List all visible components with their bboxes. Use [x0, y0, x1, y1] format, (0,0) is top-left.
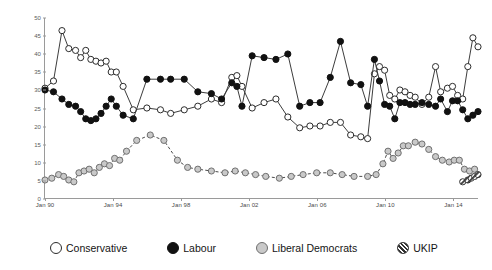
data-point	[103, 58, 109, 64]
data-point	[134, 137, 140, 143]
data-point	[144, 105, 150, 111]
data-point	[376, 78, 382, 84]
data-point	[412, 94, 418, 100]
data-point	[314, 170, 320, 176]
data-point	[456, 157, 462, 163]
x-axis-tick-label: Jan 02	[240, 202, 259, 208]
data-point	[208, 168, 214, 174]
series-line	[45, 41, 478, 120]
data-point	[161, 137, 167, 143]
data-point	[66, 46, 72, 52]
data-point	[373, 172, 379, 178]
data-point	[285, 51, 291, 57]
data-point	[358, 82, 364, 88]
data-point	[103, 103, 109, 109]
x-axis-tick-mark	[317, 198, 318, 201]
data-point	[327, 74, 333, 80]
series-canvas	[45, 18, 478, 198]
data-point	[120, 112, 126, 118]
data-point	[317, 123, 323, 129]
x-axis-tick-label: Jan 98	[172, 202, 191, 208]
data-point	[218, 96, 224, 102]
data-point	[432, 64, 438, 70]
data-point	[475, 172, 481, 178]
x-axis-tick-mark	[249, 198, 250, 201]
data-point	[371, 56, 377, 62]
data-point	[475, 44, 481, 50]
data-point	[263, 173, 269, 179]
x-axis-tick-label: Jan 90	[36, 202, 55, 208]
data-point	[419, 100, 425, 106]
legend-label: UKIP	[413, 243, 438, 254]
x-axis-tick-mark	[45, 198, 46, 201]
y-axis-tick-mark	[43, 180, 46, 181]
series-line	[45, 135, 475, 182]
y-axis-tick-mark	[43, 144, 46, 145]
y-axis-tick-mark	[43, 126, 46, 127]
data-point	[438, 89, 444, 95]
data-point	[261, 100, 267, 106]
data-point	[395, 150, 401, 156]
x-axis-tick-label: Jan 06	[308, 202, 327, 208]
data-point	[113, 103, 119, 109]
data-point	[59, 28, 65, 34]
data-point	[123, 148, 129, 154]
data-point	[419, 141, 425, 147]
open-circle-icon	[50, 242, 62, 254]
data-point	[232, 168, 238, 174]
series-labour	[42, 38, 481, 123]
data-point	[78, 55, 84, 61]
data-point	[365, 173, 371, 179]
y-axis-tick-mark	[43, 54, 46, 55]
data-point	[71, 179, 77, 185]
legend-item-liberal-democrats: Liberal Democrats	[256, 242, 357, 254]
y-axis-tick-mark	[43, 72, 46, 73]
data-point	[78, 109, 84, 115]
data-point	[358, 134, 364, 140]
legend-label: Liberal Democrats	[272, 243, 357, 254]
data-point	[249, 105, 255, 111]
data-point	[297, 103, 303, 109]
data-point	[412, 139, 418, 145]
series-line	[45, 31, 478, 139]
legend-item-labour: Labour	[167, 242, 216, 254]
data-point	[470, 35, 476, 41]
x-axis-tick-mark	[113, 198, 114, 201]
data-point	[234, 83, 240, 89]
data-point	[147, 132, 153, 138]
data-point	[195, 103, 201, 109]
data-point	[157, 107, 163, 113]
data-point	[426, 101, 432, 107]
legend-label: Labour	[183, 243, 216, 254]
legend-label: Conservative	[66, 243, 127, 254]
data-point	[93, 116, 99, 122]
data-point	[449, 83, 455, 89]
y-axis-tick-mark	[43, 90, 46, 91]
data-point	[475, 109, 481, 115]
plot-area: 05101520253035404550Jan 90Jan 94Jan 98Ja…	[44, 18, 478, 199]
data-point	[168, 110, 174, 116]
data-point	[405, 143, 411, 149]
data-point	[72, 103, 78, 109]
x-axis-tick-mark	[385, 198, 386, 201]
data-point	[261, 55, 267, 61]
data-point	[288, 173, 294, 179]
data-point	[168, 76, 174, 82]
data-point	[351, 173, 357, 179]
data-point	[273, 96, 279, 102]
data-point	[108, 96, 114, 102]
chart-container: 05101520253035404550Jan 90Jan 94Jan 98Ja…	[0, 0, 492, 270]
data-point	[387, 103, 393, 109]
data-point	[50, 89, 56, 95]
x-axis-tick-label: Jan 14	[444, 202, 463, 208]
data-point	[49, 175, 55, 181]
data-point	[59, 96, 65, 102]
data-point	[144, 76, 150, 82]
legend-item-conservative: Conservative	[50, 242, 127, 254]
data-point	[327, 119, 333, 125]
data-point	[252, 172, 258, 178]
series-conservative	[42, 28, 481, 142]
data-point	[195, 89, 201, 95]
data-point	[276, 175, 282, 181]
y-axis-tick-mark	[43, 18, 46, 19]
